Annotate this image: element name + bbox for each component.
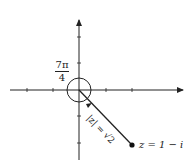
angle-arrow-icon [86, 103, 92, 108]
point-label: z = 1 − i [139, 139, 183, 150]
angle-label: 7π 4 [55, 60, 69, 83]
point-z [129, 142, 134, 147]
angle-denominator: 4 [55, 72, 69, 83]
angle-numerator: 7π [55, 60, 69, 72]
